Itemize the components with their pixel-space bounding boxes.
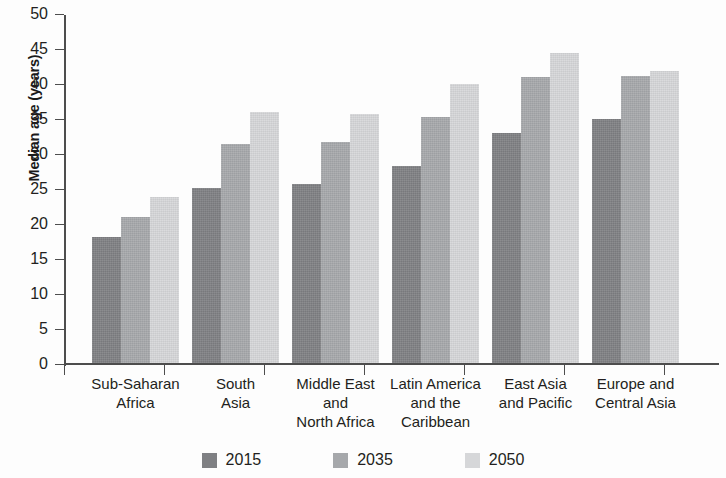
category-label-line: Europe and [576, 374, 696, 393]
x-axis-tick [64, 365, 65, 375]
legend-swatch [465, 453, 480, 468]
y-axis-tick: 20 [55, 224, 64, 225]
bar [650, 71, 679, 364]
legend-swatch [333, 453, 348, 468]
bar [492, 133, 521, 363]
legend-item[interactable]: 2015 [202, 452, 262, 468]
legend-label: 2015 [226, 452, 262, 468]
y-axis-tick-label: 25 [30, 181, 48, 197]
bar [92, 237, 121, 364]
bar-group [392, 13, 479, 363]
bar-group [492, 13, 579, 363]
bar [221, 144, 250, 363]
bar [292, 184, 321, 363]
y-axis-tick: 0 [55, 364, 64, 365]
y-axis-tick: 35 [55, 119, 64, 120]
y-axis-tick-label: 40 [30, 76, 48, 92]
bar [392, 166, 421, 363]
y-axis-tick-label: 5 [39, 321, 48, 337]
category-label-line: Caribbean [376, 412, 496, 431]
bar [592, 119, 621, 363]
y-axis-tick: 30 [55, 154, 64, 155]
y-axis-tick-label: 20 [30, 216, 48, 232]
legend-item[interactable]: 2050 [465, 452, 525, 468]
bar [250, 112, 279, 363]
bar-group [292, 13, 379, 363]
y-axis-tick-label: 50 [30, 6, 48, 22]
legend-label: 2050 [489, 452, 525, 468]
bar [350, 114, 379, 363]
y-axis-tick: 15 [55, 259, 64, 260]
y-axis-tick: 25 [55, 189, 64, 190]
bar [450, 84, 479, 363]
y-axis-tick: 5 [55, 329, 64, 330]
y-axis-tick-label: 45 [30, 41, 48, 57]
bar [550, 53, 579, 364]
y-axis-line [64, 15, 66, 366]
bar [321, 142, 350, 363]
y-axis-tick-label: 0 [39, 356, 48, 372]
bar [150, 197, 179, 364]
bar [421, 117, 450, 363]
bar [521, 77, 550, 363]
category-label-line: Central Asia [576, 393, 696, 412]
chart-legend: 201520352050 [0, 452, 726, 468]
y-axis-tick: 10 [55, 294, 64, 295]
legend-swatch [202, 453, 217, 468]
bar [621, 76, 650, 363]
x-axis-category-label: Europe andCentral Asia [576, 374, 696, 412]
y-axis-tick: 50 [55, 14, 64, 15]
legend-label: 2035 [357, 452, 393, 468]
bar-chart: Median age (years) 05101520253035404550 … [0, 0, 726, 478]
bar-group [192, 13, 279, 363]
x-axis-line [64, 363, 719, 365]
y-axis-tick-label: 10 [30, 286, 48, 302]
y-axis-tick-label: 15 [30, 251, 48, 267]
plot-area: 05101520253035404550 [64, 15, 719, 365]
bar [121, 217, 150, 363]
y-axis-tick: 40 [55, 84, 64, 85]
bar [192, 188, 221, 363]
bar-group [592, 13, 679, 363]
bar-group [92, 13, 179, 363]
y-axis-tick: 45 [55, 49, 64, 50]
y-axis-tick-label: 30 [30, 146, 48, 162]
legend-item[interactable]: 2035 [333, 452, 393, 468]
y-axis-tick-label: 35 [30, 111, 48, 127]
